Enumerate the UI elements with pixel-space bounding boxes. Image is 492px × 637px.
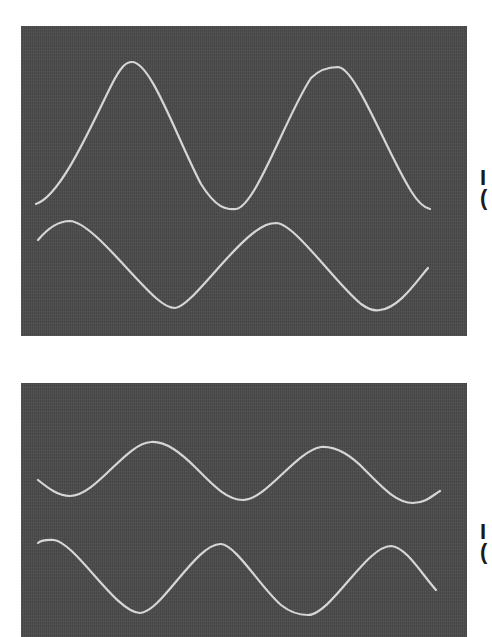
upper-waveform [36, 62, 430, 209]
cropped-side-label-bottom: I ( [480, 522, 492, 562]
waveform-traces-top [21, 26, 467, 336]
oscilloscope-panel-bottom [21, 383, 467, 637]
upper-waveform [38, 442, 440, 503]
cropped-side-label-top: I ( [480, 168, 492, 208]
lower-waveform [38, 221, 428, 310]
oscilloscope-panel-top [21, 26, 467, 336]
lower-waveform [38, 540, 436, 615]
cropped-label-line2: ( [480, 542, 492, 562]
waveform-traces-bottom [21, 383, 467, 637]
cropped-label-line2: ( [480, 188, 492, 208]
